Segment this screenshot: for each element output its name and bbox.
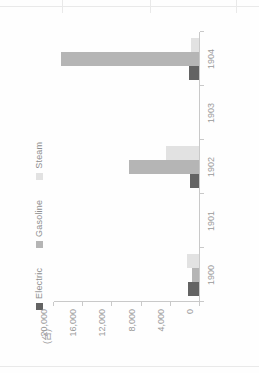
bar-gasoline-1900[interactable] [192, 268, 199, 282]
y-axis-tick-label: 16,000 [68, 309, 78, 337]
legend-item-electric[interactable]: Electric [34, 267, 44, 309]
bar-steam-1904[interactable] [191, 38, 199, 52]
y-axis-tick-label: 8,000 [126, 309, 136, 332]
page-guide-line-bottom [0, 366, 259, 367]
y-axis-tick [53, 302, 54, 306]
bar-gasoline-1904[interactable] [61, 52, 199, 66]
bar-chart: ElectricGasolineSteam (台) 04,0008,00012,… [30, 28, 230, 346]
y-axis-tick-label: 4,000 [155, 309, 165, 332]
legend-item-label: Gasoline [34, 199, 44, 236]
x-axis-tick [200, 247, 204, 248]
y-axis-tick-label: 0 [185, 309, 195, 314]
page-canvas: ElectricGasolineSteam (台) 04,0008,00012,… [0, 0, 259, 373]
x-axis-tick [200, 193, 204, 194]
page-guide-tick-2 [150, 0, 151, 13]
y-axis-tick [140, 302, 141, 306]
legend-swatch-icon [35, 172, 42, 179]
y-axis-tick-label: 12,000 [97, 309, 107, 337]
bar-steam-1902[interactable] [166, 146, 199, 160]
legend-item-steam[interactable]: Steam [34, 141, 44, 179]
y-axis-tick-label: 20,000 [39, 309, 49, 337]
x-axis-tick [200, 31, 204, 32]
bar-electric-1900[interactable] [187, 281, 198, 295]
x-axis-tick-label: 1902 [206, 156, 216, 176]
bar-group-1904 [54, 32, 199, 86]
legend-item-label: Electric [34, 267, 44, 298]
plot-area: 04,0008,00012,00016,00020,00019001901190… [54, 32, 200, 302]
bar-group-1903 [54, 86, 199, 140]
y-axis-tick [111, 302, 112, 306]
bar-electric-1904[interactable] [188, 65, 198, 79]
legend-item-gasoline[interactable]: Gasoline [34, 199, 44, 247]
x-axis-tick [200, 301, 204, 302]
y-axis-tick [82, 302, 83, 306]
x-axis-tick [200, 139, 204, 140]
x-axis-tick-label: 1901 [206, 210, 216, 230]
bar-group-1901 [54, 194, 199, 248]
y-axis-tick [169, 302, 170, 306]
x-axis-tick [200, 85, 204, 86]
legend-item-label: Steam [34, 141, 44, 168]
x-axis-tick-label: 1904 [206, 48, 216, 68]
legend-swatch-icon [35, 240, 42, 247]
bar-electric-1902[interactable] [190, 173, 199, 187]
chart-legend: ElectricGasolineSteam [30, 34, 48, 310]
x-axis-tick-label: 1900 [206, 264, 216, 284]
page-guide-tick-3 [236, 0, 237, 13]
bar-gasoline-1902[interactable] [128, 160, 198, 174]
bar-group-1902 [54, 140, 199, 194]
bar-group-1900 [54, 248, 199, 302]
page-guide-tick-1 [62, 0, 63, 13]
page-guide-line-top [0, 6, 259, 7]
bar-steam-1900[interactable] [186, 254, 198, 268]
rotated-chart-wrapper: ElectricGasolineSteam (台) 04,0008,00012,… [30, 28, 230, 346]
y-axis-tick [199, 302, 200, 306]
x-axis-tick-label: 1903 [206, 102, 216, 122]
